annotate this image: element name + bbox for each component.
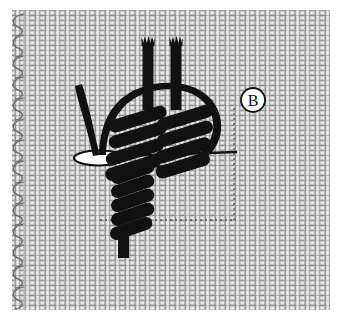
figure-label-b: B: [241, 88, 265, 112]
diagram-stage: B: [0, 0, 360, 336]
thread-tail-left: [142, 36, 155, 110]
thread-tail-bottom: [118, 230, 129, 258]
needlework-diagram-svg: B: [0, 0, 360, 336]
selvedge-warp-edge: [23, 10, 26, 310]
figure-label-text: B: [248, 92, 259, 109]
thread-tail-right: [170, 36, 183, 110]
